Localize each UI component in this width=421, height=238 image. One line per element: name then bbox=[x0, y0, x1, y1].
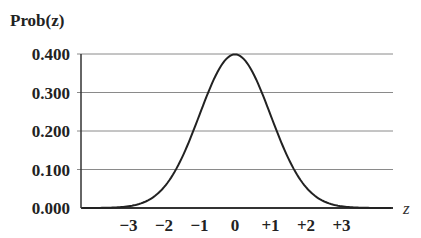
y-tick-label: 0.400 bbox=[32, 45, 70, 64]
y-axis-ticks: 0.0000.1000.2000.3000.400 bbox=[32, 45, 70, 218]
y-tick-label: 0.100 bbox=[32, 161, 70, 180]
x-tick-label: −2 bbox=[155, 216, 173, 235]
x-tick-label: −3 bbox=[119, 216, 137, 235]
x-tick-label: +2 bbox=[297, 216, 315, 235]
normal-distribution-chart: Prob(z) 0.0000.1000.2000.3000.400 −3−2−1… bbox=[0, 0, 421, 238]
y-tick-label: 0.300 bbox=[32, 84, 70, 103]
y-tick-label: 0.000 bbox=[32, 199, 70, 218]
y-tick-label: 0.200 bbox=[32, 122, 70, 141]
y-axis-title: Prob(z) bbox=[10, 11, 64, 30]
x-tick-label: 0 bbox=[231, 216, 240, 235]
x-tick-label: +3 bbox=[332, 216, 350, 235]
x-axis-ticks: −3−2−10+1+2+3 bbox=[119, 216, 350, 235]
x-tick-label: −1 bbox=[190, 216, 208, 235]
x-axis-title: z bbox=[402, 199, 410, 218]
x-tick-label: +1 bbox=[261, 216, 279, 235]
gridlines bbox=[77, 54, 393, 170]
